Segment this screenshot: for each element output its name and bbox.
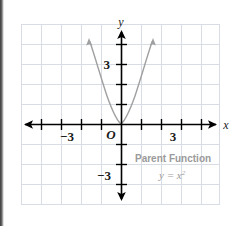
y-tick-label-3: 3 (104, 57, 111, 72)
grid-lines (21, 24, 220, 205)
x-axis-label: x (222, 118, 229, 132)
graph-svg: −3 3 3 −3 O x y Parent Function y = x2 (0, 0, 241, 226)
equation-exponent: 2 (182, 169, 186, 177)
y-axis (117, 30, 126, 201)
parent-function-equation: y = x2 (158, 169, 186, 181)
x-tick-label-neg3: −3 (60, 129, 74, 144)
y-tick-label-neg3: −3 (97, 168, 111, 183)
origin-label: O (106, 127, 116, 142)
x-tick-label-3: 3 (170, 129, 177, 144)
coordinate-plane-figure: −3 3 3 −3 O x y Parent Function y = x2 (0, 0, 241, 226)
parent-function-note-title: Parent Function (135, 153, 211, 164)
y-axis-label: y (117, 15, 124, 29)
left-edge-band (0, 0, 4, 226)
x-axis (24, 120, 217, 129)
equation-base: y = x (158, 169, 182, 181)
